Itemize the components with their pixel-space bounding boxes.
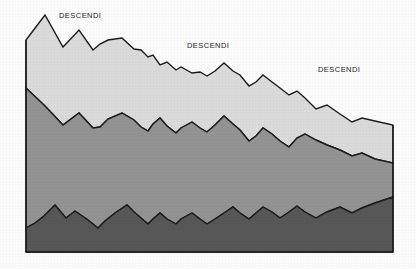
band-label-middle: DESCENDI (187, 41, 229, 50)
band-label-top: DESCENDI (59, 11, 101, 20)
figure-root: DESCENDI DESCENDI DESCENDI (0, 0, 416, 269)
band-label-bottom: DESCENDI (318, 65, 360, 74)
